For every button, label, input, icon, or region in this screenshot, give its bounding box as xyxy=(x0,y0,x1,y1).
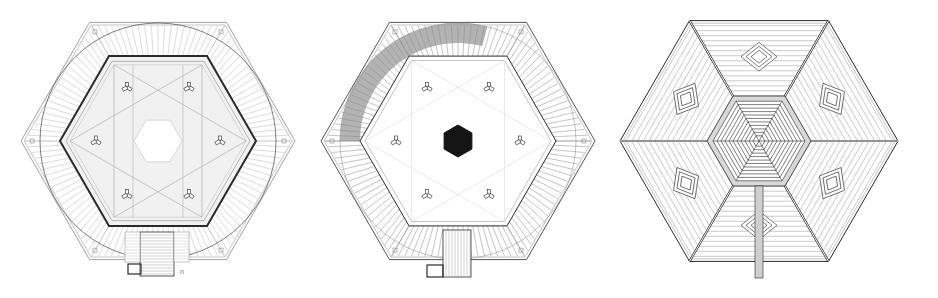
seating-row-line xyxy=(534,89,561,103)
seating-row-line xyxy=(62,188,87,205)
entrance-booth xyxy=(427,265,443,277)
seating-row-line xyxy=(52,175,80,187)
seating-row-line xyxy=(425,226,434,256)
seating-row-line xyxy=(58,183,84,198)
roof-plan xyxy=(610,0,938,298)
seating-row-line xyxy=(418,226,429,256)
seating-row-line xyxy=(249,124,281,129)
ground-floor-plan xyxy=(0,0,320,298)
seating-row-line xyxy=(236,95,264,107)
seating-row-line xyxy=(236,175,264,187)
seating-row-line xyxy=(246,118,278,124)
seating-row-line xyxy=(173,26,178,56)
seating-row-line xyxy=(438,226,443,256)
seating-row-line xyxy=(338,158,370,164)
seating-row-line xyxy=(183,26,192,56)
entrance-stair xyxy=(140,232,174,276)
seating-row-line xyxy=(249,154,281,159)
seating-row-line xyxy=(55,179,82,193)
seating-row-line xyxy=(554,145,588,147)
seating-row-line xyxy=(35,154,67,159)
seating-row-line xyxy=(178,26,185,56)
seating-row-line xyxy=(32,149,65,152)
seating-row-line xyxy=(483,226,492,256)
upper-floor-plan-drawing xyxy=(310,0,620,298)
seating-row-line xyxy=(348,171,377,182)
seating-row-line xyxy=(168,26,172,56)
seating-row-line xyxy=(32,129,65,132)
seating-row-line xyxy=(58,83,84,98)
seating-row-line xyxy=(473,226,478,256)
seating-row-line xyxy=(554,135,588,137)
seating-row-line xyxy=(151,26,153,56)
seating-row-line xyxy=(38,158,70,164)
seating-row-line xyxy=(118,26,129,56)
seating-row-line xyxy=(352,175,380,187)
seating-row-line xyxy=(332,149,365,152)
seating-row-line xyxy=(55,89,82,103)
seating-row-line xyxy=(246,158,278,164)
seating-row-line xyxy=(536,95,564,107)
seating-row-line xyxy=(358,183,384,198)
seating-row-line xyxy=(529,78,554,95)
seating-row-line xyxy=(48,171,77,182)
seating-row-line xyxy=(539,101,568,112)
seating-row-line xyxy=(549,124,581,129)
seating-row-line xyxy=(539,171,568,182)
seating-row-line xyxy=(234,89,261,103)
seating-row-line xyxy=(48,101,77,112)
seating-row-line xyxy=(232,183,258,198)
seating-row-line xyxy=(551,149,584,152)
entrance-stair xyxy=(443,230,471,277)
seating-row-line xyxy=(546,158,578,164)
seating-row-line xyxy=(335,154,367,159)
roof-plan-drawing xyxy=(610,0,938,298)
seating-row-line xyxy=(163,26,165,56)
seating-row-line xyxy=(487,26,498,56)
seating-row-line xyxy=(38,118,70,124)
seating-row-line xyxy=(145,26,149,56)
seating-row-line xyxy=(549,154,581,159)
seating-row-line xyxy=(125,26,134,56)
seating-row-line xyxy=(187,26,198,56)
seating-row-line xyxy=(232,83,258,98)
seating-row-line xyxy=(529,188,554,205)
seating-row-line xyxy=(532,183,558,198)
plan-mark-label: n xyxy=(180,268,184,275)
ground-floor-plan-drawing xyxy=(0,0,320,298)
seating-row-line xyxy=(328,145,362,147)
entrance-booth xyxy=(128,264,141,274)
seating-row-line xyxy=(254,145,288,147)
seating-row-line xyxy=(28,135,62,137)
seating-row-line xyxy=(355,179,382,193)
entrance-walkway xyxy=(755,186,763,278)
seating-row-line xyxy=(229,78,254,95)
seating-row-line xyxy=(534,179,561,193)
seating-row-line xyxy=(532,83,558,98)
seating-row-line xyxy=(35,124,67,129)
seating-row-line xyxy=(478,226,485,256)
seating-row-line xyxy=(551,129,584,132)
seating-row-line xyxy=(138,26,143,56)
seating-row-line xyxy=(28,145,62,147)
seating-row-line xyxy=(431,226,438,256)
seating-row-line xyxy=(239,171,268,182)
seating-row-line xyxy=(62,78,87,95)
seating-row-line xyxy=(487,226,498,256)
seating-row-line xyxy=(52,95,80,107)
seating-row-line xyxy=(251,149,284,152)
seating-row-line xyxy=(546,118,578,124)
seating-row-line xyxy=(251,129,284,132)
seating-row-line xyxy=(131,26,138,56)
seating-row-line xyxy=(234,179,261,193)
seating-row-line xyxy=(362,188,387,205)
upper-floor-plan xyxy=(310,0,620,298)
seating-row-line xyxy=(239,101,268,112)
seating-row-line xyxy=(254,135,288,137)
seating-row-line xyxy=(229,188,254,205)
seating-row-line xyxy=(536,175,564,187)
